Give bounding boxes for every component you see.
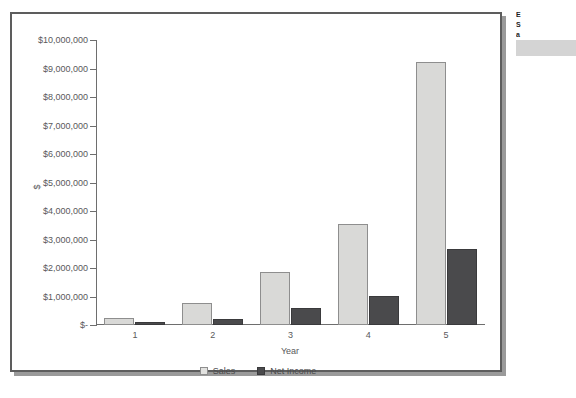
bar-net-income-year-1: [135, 322, 165, 325]
y-axis-tick: [90, 325, 97, 326]
y-axis-tick-label: $1,000,000: [16, 292, 88, 302]
bar-sales-year-1: [104, 318, 134, 325]
x-axis-tick-label: 2: [210, 330, 215, 340]
y-axis-tick: [90, 126, 97, 127]
y-axis-tick: [90, 183, 97, 184]
x-axis-tick-label: 1: [132, 330, 137, 340]
legend-label-sales: Sales: [213, 366, 236, 376]
y-axis-tick: [90, 40, 97, 41]
y-axis-tick-label: $7,000,000: [16, 121, 88, 131]
legend-swatch-sales-icon: [200, 367, 208, 375]
y-axis-tick-label: $5,000,000: [16, 178, 88, 188]
legend-item-net-income: Net Income: [257, 366, 316, 376]
y-axis-tick-label: $-: [16, 320, 88, 330]
side-caption-line-2: S: [516, 20, 576, 30]
chart-legend: Sales Net Income: [12, 366, 504, 376]
y-axis-labels: $-$1,000,000$2,000,000$3,000,000$4,000,0…: [12, 14, 88, 398]
bars-layer: [96, 40, 485, 325]
bar-net-income-year-5: [447, 249, 477, 325]
y-axis-tick-label: $4,000,000: [16, 206, 88, 216]
bar-sales-year-2: [182, 303, 212, 325]
bar-sales-year-5: [416, 62, 446, 325]
bar-net-income-year-3: [291, 308, 321, 325]
side-caption: E S a: [516, 10, 576, 40]
y-axis-tick: [90, 297, 97, 298]
y-axis-tick-label: $9,000,000: [16, 64, 88, 74]
y-axis-tick: [90, 240, 97, 241]
side-caption-line-1: E: [516, 10, 576, 20]
y-axis-tick-label: $2,000,000: [16, 263, 88, 273]
x-axis-title: Year: [281, 346, 299, 356]
bar-sales-year-3: [260, 272, 290, 325]
y-axis-tick: [90, 211, 97, 212]
x-axis-tick-label: 5: [444, 330, 449, 340]
x-axis-tick-label: 3: [288, 330, 293, 340]
bar-sales-year-4: [338, 224, 368, 325]
y-axis-tick: [90, 69, 97, 70]
y-axis-tick: [90, 268, 97, 269]
chart-panel: $ $-$1,000,000$2,000,000$3,000,000$4,000…: [10, 12, 502, 372]
bar-net-income-year-2: [213, 319, 243, 325]
y-axis-tick-label: $3,000,000: [16, 235, 88, 245]
legend-swatch-net-income-icon: [257, 367, 265, 375]
y-axis-tick: [90, 97, 97, 98]
legend-label-net-income: Net Income: [270, 366, 316, 376]
y-axis-tick-label: $8,000,000: [16, 92, 88, 102]
y-axis-tick: [90, 154, 97, 155]
y-axis-tick-label: $6,000,000: [16, 149, 88, 159]
legend-item-sales: Sales: [200, 366, 236, 376]
bar-net-income-year-4: [369, 296, 399, 325]
side-note-box: [516, 40, 576, 56]
side-caption-line-3: a: [516, 30, 576, 40]
x-axis-tick-label: 4: [366, 330, 371, 340]
y-axis-tick-label: $10,000,000: [16, 35, 88, 45]
